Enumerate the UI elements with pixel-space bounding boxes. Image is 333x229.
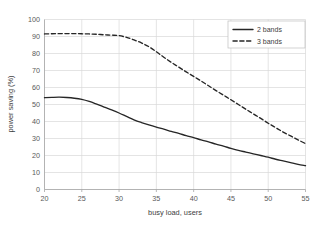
chart-container: 0102030405060708090100 2025303540455055 … — [0, 0, 333, 229]
chart-legend[interactable]: 2 bands3 bands — [228, 21, 305, 48]
y-tick-label: 30 — [32, 134, 40, 143]
power-saving-line-chart: 0102030405060708090100 2025303540455055 … — [0, 0, 333, 229]
legend-label-2-bands: 2 bands — [257, 26, 282, 33]
legend-label-3-bands: 3 bands — [257, 38, 282, 45]
x-tick-label: 25 — [78, 194, 86, 203]
x-tick-label: 35 — [152, 194, 160, 203]
y-tick-label: 60 — [32, 83, 40, 92]
y-tick-label: 10 — [32, 168, 40, 177]
x-axis-title: busy load, users — [148, 208, 202, 217]
y-tick-label: 80 — [32, 49, 40, 58]
x-tick-label: 45 — [227, 194, 235, 203]
x-tick-label: 50 — [264, 194, 272, 203]
y-axis-title: power saving (%) — [6, 75, 15, 132]
y-tick-label: 0 — [36, 185, 40, 194]
y-tick-label: 70 — [32, 66, 40, 75]
y-tick-label: 20 — [32, 151, 40, 160]
x-tick-label: 40 — [190, 194, 198, 203]
x-tick-label: 55 — [302, 194, 310, 203]
y-tick-label: 100 — [28, 15, 40, 24]
y-tick-label: 90 — [32, 32, 40, 41]
y-tick-label: 50 — [32, 100, 40, 109]
x-tick-label: 30 — [115, 194, 123, 203]
x-tick-label: 20 — [41, 194, 49, 203]
y-tick-label: 40 — [32, 117, 40, 126]
